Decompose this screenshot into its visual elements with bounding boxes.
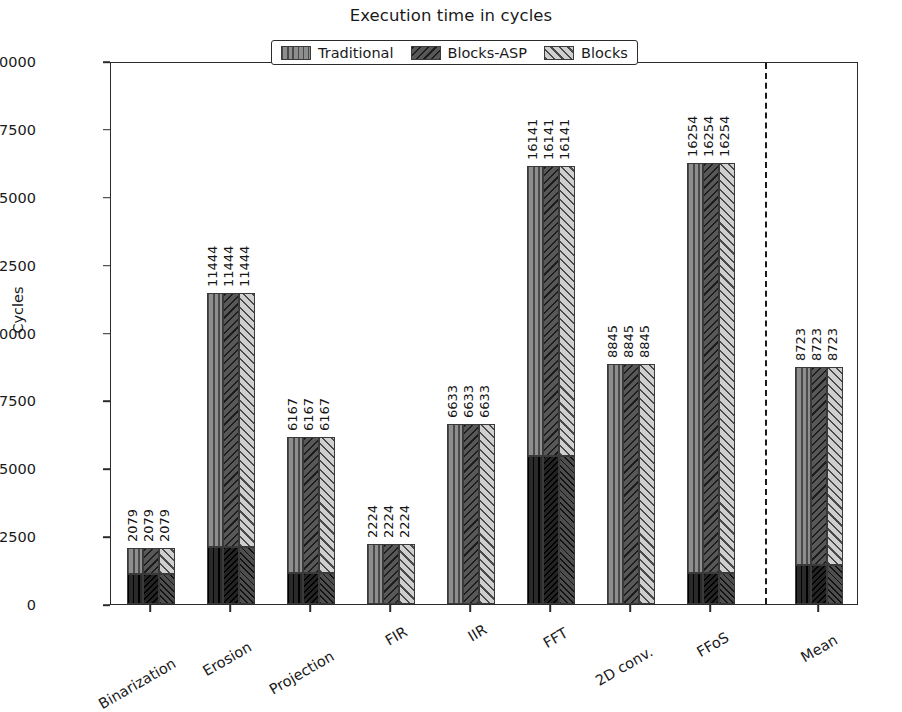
bar-segment-overhead [287, 573, 303, 604]
bar-value-label: 8845 [621, 325, 636, 358]
y-tick-label: 10000 [0, 326, 36, 342]
bar-group: 884588458845 [607, 61, 655, 604]
bar-group: 663366336633 [447, 61, 495, 604]
bar[interactable]: 2224 [399, 61, 415, 604]
bar-segment-overhead [319, 573, 335, 604]
bar-value-label: 6633 [445, 385, 460, 418]
bar-group: 616761676167 [287, 61, 335, 604]
legend-swatch-blocks-asp-icon [411, 46, 441, 60]
bars-layer: 2079207920791144411444114446167616761672… [111, 63, 857, 604]
y-tick-label: 7500 [0, 393, 36, 409]
bar[interactable]: 11444 [223, 61, 239, 604]
x-tick-mark [709, 605, 711, 612]
bar-value-label: 6167 [317, 397, 332, 430]
bar-group: 162541625416254 [687, 61, 735, 604]
y-tick-mark [103, 129, 110, 131]
legend-label-blocks-asp: Blocks-ASP [448, 45, 528, 61]
y-tick-label: 5000 [0, 461, 36, 477]
x-tick-label-binarization: Binarization [96, 655, 179, 712]
bar-segment-compute [287, 437, 303, 573]
x-tick-label-fir: FIR [382, 623, 410, 648]
chart-title: Execution time in cycles [0, 6, 902, 25]
x-tick-mark [817, 605, 819, 612]
bar[interactable]: 8723 [827, 61, 843, 604]
bar-segment-overhead [719, 573, 735, 604]
x-tick-label-erosion: Erosion [200, 639, 254, 680]
x-tick-mark [549, 605, 551, 612]
y-tick-mark [103, 604, 110, 606]
y-tick-label: 17500 [0, 122, 36, 138]
legend-swatch-traditional-icon [281, 46, 311, 60]
bar-segment-compute [703, 163, 719, 573]
bar[interactable]: 2079 [159, 61, 175, 604]
bar-value-label: 2079 [141, 508, 156, 541]
bar-segment-overhead [207, 547, 223, 604]
bar[interactable]: 16254 [719, 61, 735, 604]
bar-segment-compute [143, 548, 159, 575]
bar-value-label: 11444 [205, 246, 220, 287]
bar-value-label: 8845 [605, 325, 620, 358]
y-tick-label: 12500 [0, 258, 36, 274]
x-tick-mark [389, 605, 391, 612]
bar[interactable]: 6167 [303, 61, 319, 604]
bar-segment-compute [559, 166, 575, 456]
bar-segment-overhead [303, 573, 319, 604]
bar-value-label: 6633 [461, 385, 476, 418]
bar-value-label: 2079 [125, 508, 140, 541]
y-tick-mark [103, 401, 110, 403]
bar-segment-compute [795, 367, 811, 565]
bar[interactable]: 6167 [287, 61, 303, 604]
bar-segment-overhead [827, 565, 843, 604]
bar-group: 207920792079 [127, 61, 175, 604]
bar[interactable]: 6633 [463, 61, 479, 604]
bar-value-label: 6167 [301, 397, 316, 430]
bar-segment-compute [639, 364, 655, 604]
bar-value-label: 11444 [237, 246, 252, 287]
bar[interactable]: 11444 [239, 61, 255, 604]
bar[interactable]: 8845 [639, 61, 655, 604]
bar-value-label: 11444 [221, 246, 236, 287]
bar-segment-overhead [527, 456, 543, 604]
x-tick-mark [229, 605, 231, 612]
bar-segment-compute [687, 163, 703, 573]
bar-segment-compute [239, 293, 255, 546]
plot-area: 2079207920791144411444114446167616761672… [110, 62, 858, 605]
legend-item-traditional[interactable]: Traditional [281, 45, 394, 61]
bar-group: 161411614116141 [527, 61, 575, 604]
y-tick-mark [103, 197, 110, 199]
bar[interactable]: 11444 [207, 61, 223, 604]
x-tick-mark [309, 605, 311, 612]
bar-segment-compute [319, 437, 335, 573]
bar[interactable]: 16141 [559, 61, 575, 604]
legend-label-traditional: Traditional [318, 45, 394, 61]
y-tick-label: 15000 [0, 190, 36, 206]
y-tick-label: 0 [27, 597, 36, 613]
bar-segment-compute [127, 548, 143, 575]
bar-segment-compute [223, 293, 239, 546]
x-tick-label-projection: Projection [267, 648, 337, 698]
bar-value-label: 16141 [525, 118, 540, 159]
bar-value-label: 8723 [825, 328, 840, 361]
bar[interactable]: 6633 [447, 61, 463, 604]
bar-value-label: 2224 [365, 505, 380, 538]
bar-segment-compute [159, 548, 175, 575]
legend-label-blocks: Blocks [581, 45, 628, 61]
legend-item-blocks-asp[interactable]: Blocks-ASP [411, 45, 528, 61]
y-tick-mark [103, 265, 110, 267]
bar-segment-compute [527, 166, 543, 456]
legend-item-blocks[interactable]: Blocks [544, 45, 628, 61]
bar[interactable]: 6633 [479, 61, 495, 604]
chart-legend: Traditional Blocks-ASP Blocks [271, 40, 638, 65]
bar-segment-overhead [223, 547, 239, 604]
bar-value-label: 16141 [557, 118, 572, 159]
bar-value-label: 16254 [701, 115, 716, 156]
bar-segment-overhead [143, 574, 159, 604]
bar-segment-overhead [127, 574, 143, 604]
bar[interactable]: 6167 [319, 61, 335, 604]
bar-segment-compute [399, 544, 415, 604]
bar-segment-compute [479, 424, 495, 604]
mean-separator-line [765, 63, 767, 604]
bar-value-label: 16254 [685, 115, 700, 156]
y-axis-label: Cycles [10, 30, 26, 590]
